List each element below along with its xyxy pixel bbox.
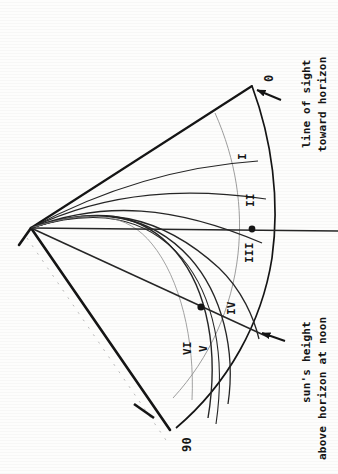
hour-label-ii: II: [245, 193, 258, 207]
sundial-diagram-svg: [0, 0, 338, 474]
suns-height-arrow: [262, 333, 285, 341]
annotation-suns-height-line1: sun's height: [301, 321, 314, 403]
vertex-tick: [19, 228, 31, 245]
figure-canvas: 0 90 I II III IV V VI line of sight towa…: [0, 0, 338, 474]
hour-label-v: V: [198, 345, 211, 352]
annotation-line-of-sight-line1: line of sight: [301, 59, 314, 148]
hour-label-vi: VI: [182, 341, 195, 355]
line-of-sight-marker-dot: [249, 226, 256, 233]
line-of-sight-arrow: [257, 90, 281, 100]
annotation-line-of-sight-line2: toward horizon: [317, 56, 330, 152]
scale-label-ninety: 90: [180, 437, 194, 452]
hour-curve-VI-outer: [31, 218, 219, 424]
sector-upper-edge: [31, 86, 252, 228]
sector-lower-edge: [31, 228, 170, 430]
scale-label-zero: 0: [262, 75, 276, 82]
hour-label-i: I: [237, 153, 250, 160]
ninety-tick: [134, 404, 154, 418]
hour-label-iii: III: [244, 243, 257, 263]
hour-label-iv: IV: [226, 301, 239, 315]
line-of-sight-line: [31, 228, 338, 231]
annotation-suns-height-line2: above horizon at noon: [317, 317, 330, 460]
suns-height-marker-dot: [197, 303, 204, 310]
